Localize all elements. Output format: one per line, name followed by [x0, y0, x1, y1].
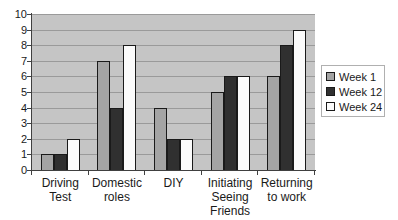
- legend-swatch-icon: [326, 102, 335, 111]
- y-axis-tick-label: 0: [1, 164, 27, 176]
- bar: [180, 139, 193, 170]
- y-axis-tick: [27, 30, 31, 31]
- bar-group: [89, 14, 146, 170]
- x-axis-category-label: Domestic roles: [89, 176, 146, 218]
- y-axis-tick: [27, 108, 31, 109]
- bar: [41, 154, 54, 170]
- y-axis-tick-label: 2: [1, 133, 27, 145]
- x-axis-tick: [144, 171, 145, 175]
- y-axis-tick-label: 8: [1, 39, 27, 51]
- x-axis-line: [31, 170, 316, 171]
- x-axis-labels: Driving TestDomestic rolesDIYInitiating …: [32, 176, 315, 218]
- bar: [110, 108, 123, 170]
- bar: [67, 139, 80, 170]
- y-axis-tick: [27, 45, 31, 46]
- legend: Week 1Week 12Week 24: [321, 65, 385, 117]
- y-axis-tick: [27, 139, 31, 140]
- y-axis-tick-label: 4: [1, 102, 27, 114]
- y-axis-line: [31, 13, 32, 171]
- y-axis-tick: [27, 154, 31, 155]
- y-axis-tick-label: 3: [1, 117, 27, 129]
- bar: [123, 45, 136, 170]
- bar: [167, 139, 180, 170]
- legend-item: Week 1: [326, 70, 380, 83]
- y-axis-tick: [27, 123, 31, 124]
- x-axis-tick: [201, 171, 202, 175]
- x-axis-category-label: Initiating Seeing Friends: [202, 176, 259, 218]
- bar: [224, 76, 237, 170]
- y-axis-tick: [27, 92, 31, 93]
- x-axis-category-label: DIY: [145, 176, 202, 218]
- bar: [54, 154, 67, 170]
- x-axis-tick: [257, 171, 258, 175]
- x-axis-category-label: Returning to work: [258, 176, 315, 218]
- plot-area: [32, 14, 315, 170]
- bar: [97, 61, 110, 170]
- y-axis-tick-label: 6: [1, 70, 27, 82]
- x-axis-tick: [31, 171, 32, 175]
- x-axis-tick: [314, 171, 315, 175]
- x-axis-tick: [88, 171, 89, 175]
- legend-label: Week 12: [339, 86, 382, 98]
- bar: [280, 45, 293, 170]
- bar-group: [202, 14, 259, 170]
- bar: [211, 92, 224, 170]
- y-axis-tick-label: 1: [1, 148, 27, 160]
- bar-chart: 012345678910 Driving TestDomestic rolesD…: [0, 0, 398, 220]
- y-axis-tick: [27, 76, 31, 77]
- y-axis-tick-label: 9: [1, 24, 27, 36]
- bar: [237, 76, 250, 170]
- legend-item: Week 24: [326, 100, 380, 113]
- legend-swatch-icon: [326, 87, 335, 96]
- y-axis-tick: [27, 14, 31, 15]
- legend-label: Week 24: [339, 101, 382, 113]
- bar-group: [145, 14, 202, 170]
- bar-groups: [32, 14, 315, 170]
- legend-label: Week 1: [339, 71, 376, 83]
- y-axis-tick-label: 5: [1, 86, 27, 98]
- y-axis-tick-label: 10: [1, 8, 27, 20]
- bar-group: [32, 14, 89, 170]
- bar: [154, 108, 167, 170]
- bar: [293, 30, 306, 170]
- y-axis-tick: [27, 61, 31, 62]
- bar-group: [258, 14, 315, 170]
- y-axis-tick-label: 7: [1, 55, 27, 67]
- legend-item: Week 12: [326, 85, 380, 98]
- x-axis-category-label: Driving Test: [32, 176, 89, 218]
- legend-swatch-icon: [326, 72, 335, 81]
- bar: [267, 76, 280, 170]
